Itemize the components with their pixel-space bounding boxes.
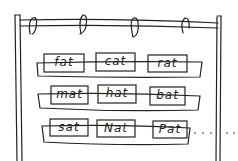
word-card-rat: rat — [148, 56, 187, 70]
word-card-bat: bat — [150, 88, 185, 102]
word-card-hat: hat — [98, 86, 136, 100]
word-card-mat: mat — [51, 87, 88, 101]
word-card-pat: Pat — [153, 122, 187, 136]
word-card-fat: fat — [44, 55, 84, 69]
pocket-chart-drawing — [0, 0, 238, 161]
word-card-nat: Nat — [97, 121, 135, 135]
word-card-sat: sat — [50, 120, 88, 134]
word-card-cat: cat — [96, 54, 135, 68]
